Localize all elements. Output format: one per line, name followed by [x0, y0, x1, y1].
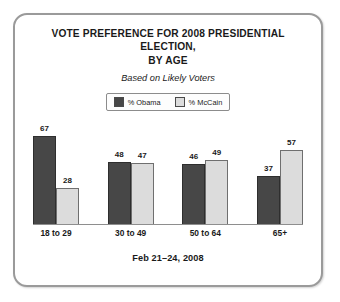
bar-value-label: 47: [138, 152, 147, 160]
bar: [131, 163, 154, 225]
bar: [33, 136, 56, 225]
chart-subtitle: Based on Likely Voters: [31, 73, 305, 84]
bar: [257, 176, 280, 225]
bar-item: 28: [56, 177, 79, 225]
x-axis-tick-label: 18 to 29: [33, 229, 79, 238]
bar-value-label: 46: [189, 153, 198, 161]
legend-item-mccain: % McCain: [175, 97, 223, 107]
x-axis-tick-label: 30 to 49: [108, 229, 154, 238]
bar: [182, 164, 205, 225]
bar-value-label: 48: [115, 151, 124, 159]
bar: [280, 150, 303, 226]
bar-group: 4649: [182, 149, 228, 225]
chart-card: VOTE PREFERENCE FOR 2008 PRESIDENTIAL EL…: [13, 13, 323, 287]
chart-title-line-2: BY AGE: [148, 55, 187, 66]
bar-item: 67: [33, 125, 56, 225]
bar: [56, 188, 79, 225]
bar-value-label: 49: [212, 149, 221, 157]
bar-item: 57: [280, 139, 303, 226]
x-axis-line: [33, 224, 303, 225]
title-block: VOTE PREFERENCE FOR 2008 PRESIDENTIAL EL…: [15, 15, 321, 84]
bar-item: 47: [131, 152, 154, 225]
bar-value-label: 67: [40, 125, 49, 133]
legend-swatch-mccain: [175, 97, 185, 107]
x-axis-tick-label: 50 to 64: [182, 229, 228, 238]
page-title: VOTE PREFERENCE FOR 2008 PRESIDENTIAL EL…: [31, 27, 305, 67]
bar-value-label: 37: [264, 165, 273, 173]
chart-legend: % Obama % McCain: [106, 93, 231, 111]
bar: [205, 160, 228, 225]
bar-item: 46: [182, 153, 205, 225]
bar-item: 37: [257, 165, 280, 225]
legend-label-mccain: % McCain: [189, 99, 223, 106]
bar-item: 48: [108, 151, 131, 226]
bar-group: 4847: [108, 151, 154, 226]
bar-value-label: 57: [287, 139, 296, 147]
plot-area: 6728484746493757: [33, 121, 303, 225]
legend-swatch-obama: [114, 97, 124, 107]
bar-item: 49: [205, 149, 228, 225]
legend-label-obama: % Obama: [128, 99, 161, 106]
x-axis-tick-labels: 18 to 2930 to 4950 to 6465+: [33, 229, 303, 238]
chart-title-line-1: VOTE PREFERENCE FOR 2008 PRESIDENTIAL EL…: [51, 28, 284, 52]
chart-footnote: Feb 21–24, 2008: [15, 253, 321, 263]
bar: [108, 162, 131, 226]
bar-group: 6728: [33, 125, 79, 225]
bar-value-label: 28: [63, 177, 72, 185]
x-axis-tick-label: 65+: [257, 229, 303, 238]
bar-area: 6728484746493757: [33, 121, 303, 225]
bar-group: 3757: [257, 139, 303, 226]
legend-item-obama: % Obama: [114, 97, 161, 107]
